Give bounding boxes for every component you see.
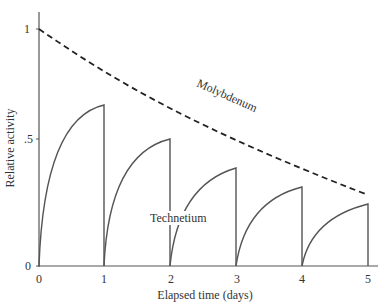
y-tick-0: 0 bbox=[25, 259, 31, 273]
technetium-curve bbox=[39, 105, 368, 266]
x-tick-5: 5 bbox=[365, 272, 371, 286]
x-tick-4: 4 bbox=[299, 272, 305, 286]
x-tick-0: 0 bbox=[36, 272, 42, 286]
y-axis-title: Relative activity bbox=[3, 109, 17, 188]
x-axis-title: Elapsed time (days) bbox=[157, 288, 252, 302]
x-tick-1: 1 bbox=[101, 272, 107, 286]
decay-chart: 1 .5 0 0 1 2 3 4 5 Elapsed time (days) R… bbox=[0, 0, 387, 306]
molybdenum-label: Molybdenum bbox=[195, 76, 260, 115]
technetium-label: Technetium bbox=[150, 211, 207, 225]
y-tick-half: .5 bbox=[24, 132, 33, 146]
x-tick-2: 2 bbox=[168, 272, 174, 286]
y-tick-1: 1 bbox=[24, 22, 30, 36]
x-tick-3: 3 bbox=[234, 272, 240, 286]
